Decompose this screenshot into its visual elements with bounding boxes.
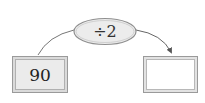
operation-label: ÷2	[74, 18, 136, 45]
connector-left-curve	[38, 30, 74, 55]
connector-right-arrow	[136, 30, 171, 52]
output-box[interactable]	[143, 56, 198, 93]
input-box: 90	[12, 56, 68, 93]
